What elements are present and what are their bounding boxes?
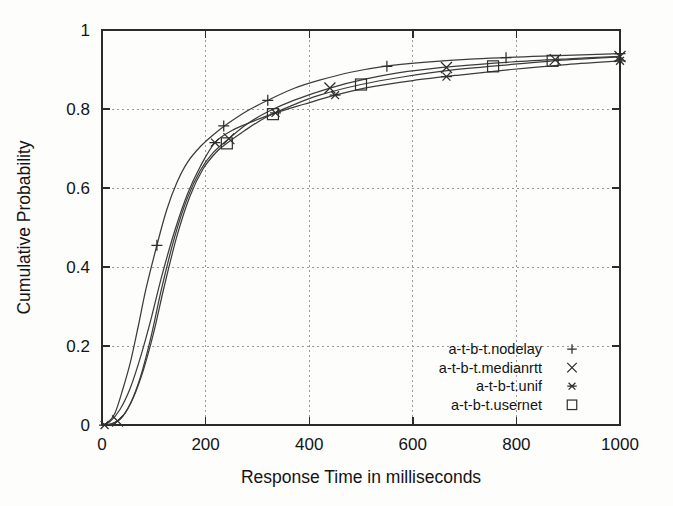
legend-entry-3[interactable]: a-t-b-t.usernet (451, 397, 577, 413)
legend-entry-1[interactable]: a-t-b-t.medianrtt (439, 360, 577, 376)
series-line-1 (102, 56, 620, 425)
marker-plus-s0-0 (151, 240, 162, 251)
cdf-plot: 00.20.40.60.8102004006008001000 Response… (0, 0, 673, 506)
markers-layer (99, 48, 625, 429)
y-tick-label: 0.6 (66, 179, 90, 198)
marker-asterisk-s2-1 (209, 139, 220, 147)
marker-plus-s0-3 (381, 61, 392, 72)
y-axis-title: Cumulative Probability (14, 140, 34, 314)
legend-entry-2[interactable]: a-t-b-t.unif (476, 378, 577, 394)
y-tick-label: 1 (81, 21, 90, 40)
x-axis-title: Response Time in milliseconds (241, 467, 481, 487)
series-line-3 (102, 57, 620, 425)
legend-entry-0[interactable]: a-t-b-t.nodelay (449, 341, 577, 357)
legend-label: a-t-b-t.unif (476, 378, 543, 394)
marker-square-legend-3 (567, 400, 577, 410)
legend-label: a-t-b-t.medianrtt (439, 360, 542, 376)
x-tick-label: 200 (191, 435, 219, 454)
x-tick-label: 800 (502, 435, 530, 454)
x-tick-label: 600 (399, 435, 427, 454)
x-tick-label: 1000 (601, 435, 639, 454)
legend-label: a-t-b-t.usernet (451, 397, 542, 413)
y-tick-label: 0.2 (66, 337, 90, 356)
x-tick-label: 0 (97, 435, 106, 454)
marker-cross-legend-1 (567, 363, 577, 373)
legend-label: a-t-b-t.nodelay (449, 341, 543, 357)
y-tick-label: 0 (81, 416, 90, 435)
series-line-2 (102, 61, 620, 425)
marker-asterisk-s2-4 (441, 73, 452, 81)
chart-figure: 00.20.40.60.8102004006008001000 Response… (0, 0, 673, 506)
y-tick-label: 0.4 (66, 258, 90, 277)
x-tick-label: 400 (295, 435, 323, 454)
marker-asterisk-legend-2 (567, 383, 577, 390)
marker-plus-s0-2 (262, 95, 273, 106)
y-tick-label: 0.8 (66, 100, 90, 119)
chart-legend: a-t-b-t.nodelaya-t-b-t.medianrtta-t-b-t.… (439, 341, 577, 413)
